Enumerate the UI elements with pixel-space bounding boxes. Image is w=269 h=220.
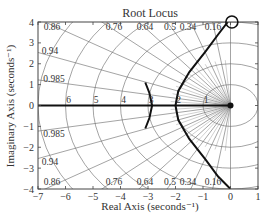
svg-text:4: 4 [29, 17, 34, 28]
svg-text:6: 6 [66, 95, 71, 105]
y-axis-label: Imaginary Axis (seconds⁻¹) [4, 45, 17, 168]
svg-text:−5: −5 [88, 191, 99, 202]
svg-text:2: 2 [29, 58, 34, 69]
svg-text:3: 3 [29, 37, 34, 48]
svg-text:0.985: 0.985 [43, 129, 65, 139]
svg-text:0: 0 [29, 100, 34, 111]
svg-text:−6: −6 [60, 191, 71, 202]
svg-text:0.34: 0.34 [180, 177, 197, 187]
svg-text:0.86: 0.86 [44, 22, 61, 32]
root-locus-chart: Root Locus −7−6−5−4−3−2−101−4−3−2−101234… [0, 0, 269, 220]
svg-text:−7: −7 [33, 191, 44, 202]
svg-text:0.86: 0.86 [44, 177, 61, 187]
svg-text:0.5: 0.5 [164, 177, 176, 187]
svg-text:−1: −1 [23, 121, 34, 132]
svg-text:3: 3 [149, 95, 154, 105]
svg-text:0.5: 0.5 [164, 22, 176, 32]
svg-text:0.76: 0.76 [106, 22, 123, 32]
svg-text:−4: −4 [23, 184, 34, 195]
svg-text:−3: −3 [23, 163, 34, 174]
svg-text:1: 1 [256, 191, 261, 202]
svg-text:0.16: 0.16 [205, 22, 222, 32]
svg-text:0.94: 0.94 [42, 157, 59, 167]
svg-text:4: 4 [121, 95, 126, 105]
svg-text:0.985: 0.985 [43, 74, 65, 84]
svg-text:2: 2 [176, 95, 181, 105]
svg-text:0.16: 0.16 [205, 177, 222, 187]
svg-text:5: 5 [94, 95, 99, 105]
svg-text:0: 0 [228, 191, 233, 202]
svg-text:−1: −1 [198, 191, 209, 202]
svg-text:0.94: 0.94 [42, 46, 59, 56]
locus-branches [38, 22, 234, 189]
svg-text:0.34: 0.34 [180, 22, 197, 32]
chart-title: Root Locus [122, 6, 178, 20]
svg-text:0.76: 0.76 [106, 177, 123, 187]
svg-text:0.64: 0.64 [137, 22, 154, 32]
svg-text:−2: −2 [23, 142, 34, 153]
svg-text:1: 1 [204, 95, 209, 105]
svg-text:1: 1 [29, 79, 34, 90]
x-axis-label: Real Axis (seconds⁻¹) [101, 200, 199, 213]
svg-text:0.64: 0.64 [137, 177, 154, 187]
